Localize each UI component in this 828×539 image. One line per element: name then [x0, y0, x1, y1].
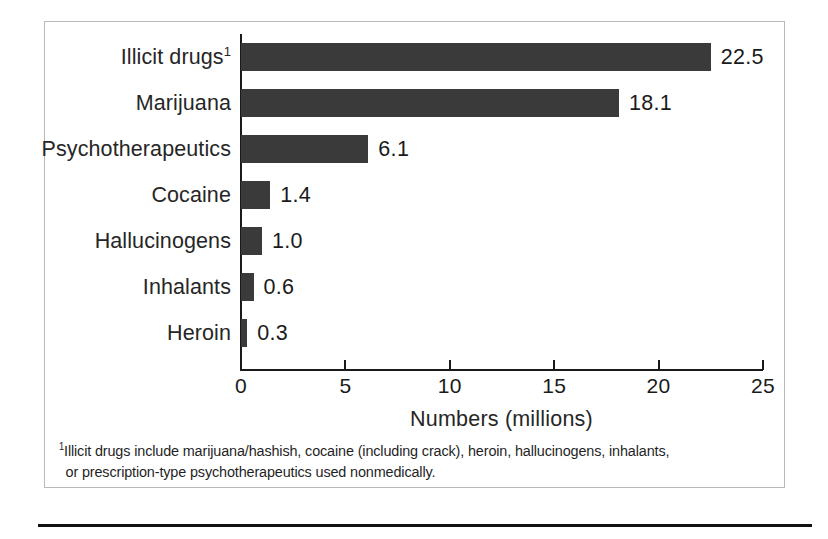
bar-value-label: 1.0: [272, 218, 303, 264]
category-label: Psychotherapeutics: [42, 126, 231, 172]
category-label: Marijuana: [136, 80, 231, 126]
bar-row: Inhalants0.6: [45, 264, 786, 310]
x-tick-10: [449, 360, 451, 370]
bar-row: Marijuana18.1: [45, 80, 786, 126]
bar-value-label: 22.5: [721, 34, 764, 80]
bottom-rule: [38, 524, 812, 527]
category-label: Cocaine: [151, 172, 231, 218]
figure: 0510152025 Illicit drugs122.5Marijuana18…: [0, 0, 828, 539]
bar: [241, 43, 711, 71]
x-tick-label-0: 0: [235, 374, 247, 398]
bar: [241, 181, 270, 209]
x-tick-25: [762, 360, 764, 370]
x-tick-15: [553, 360, 555, 370]
category-label: Illicit drugs1: [121, 34, 231, 80]
category-footnote-marker: 1: [224, 44, 231, 59]
x-tick-label-5: 5: [339, 374, 351, 398]
category-label: Hallucinogens: [95, 218, 231, 264]
bar-row: Heroin0.3: [45, 310, 786, 356]
x-axis-title: Numbers (millions): [240, 407, 763, 432]
category-label: Inhalants: [143, 264, 231, 310]
footnote-line-1: Illicit drugs include marijuana/hashish,…: [64, 442, 669, 459]
footnote-line-2: or prescription-type psychotherapeutics …: [59, 461, 724, 482]
x-tick-label-20: 20: [647, 374, 671, 398]
bar-row: Psychotherapeutics6.1: [45, 126, 786, 172]
x-tick-label-10: 10: [438, 374, 462, 398]
bar: [241, 319, 247, 347]
bar-row: Illicit drugs122.5: [45, 34, 786, 80]
bar-row: Hallucinogens1.0: [45, 218, 786, 264]
bar: [241, 89, 619, 117]
x-tick-label-15: 15: [542, 374, 566, 398]
chart-box: 0510152025 Illicit drugs122.5Marijuana18…: [44, 21, 785, 488]
bar: [241, 135, 368, 163]
bar-row: Cocaine1.4: [45, 172, 786, 218]
bar: [241, 273, 254, 301]
plot-area: 0510152025 Illicit drugs122.5Marijuana18…: [45, 22, 786, 489]
bar-value-label: 0.3: [257, 310, 288, 356]
bar-value-label: 18.1: [629, 80, 672, 126]
footnote: 1Illicit drugs include marijuana/hashish…: [59, 440, 724, 482]
bar-value-label: 1.4: [280, 172, 311, 218]
x-tick-5: [344, 360, 346, 370]
x-tick-0: [240, 360, 242, 370]
bar-value-label: 0.6: [264, 264, 295, 310]
bar-value-label: 6.1: [378, 126, 409, 172]
bar: [241, 227, 262, 255]
x-axis-line: [240, 369, 763, 371]
x-tick-20: [658, 360, 660, 370]
x-tick-label-25: 25: [751, 374, 775, 398]
category-label: Heroin: [167, 310, 231, 356]
